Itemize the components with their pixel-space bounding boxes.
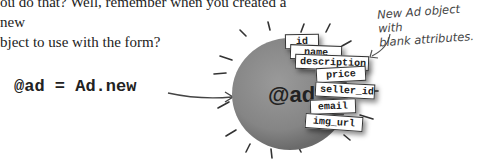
arrow-icon — [168, 92, 233, 102]
attribute-price: price — [316, 66, 367, 84]
object-label: @ad — [268, 82, 315, 108]
annotation-note: New Ad object with blank attributes. — [377, 0, 482, 49]
attribute-seller-id: seller_id — [315, 81, 376, 99]
attribute-email: email — [310, 98, 356, 115]
